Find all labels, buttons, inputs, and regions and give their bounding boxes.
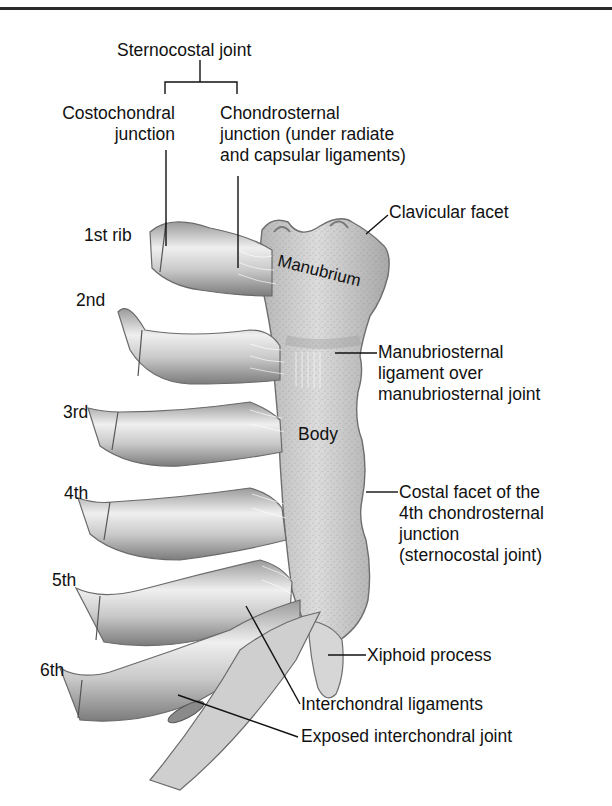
label-xiphoid-process: Xiphoid process (367, 645, 492, 666)
label-costal-facet: Costal facet of the 4th chondrosternal j… (399, 482, 544, 566)
label-rib-5: 5th (52, 570, 76, 591)
label-rib-4: 4th (64, 483, 88, 504)
label-line: (sternocostal joint) (399, 545, 544, 566)
label-chondrosternal-junction: Chondrosternal junction (under radiate a… (220, 103, 406, 166)
label-interchondral-ligaments: Interchondral ligaments (301, 694, 483, 715)
label-manubriosternal-ligament: Manubriosternal ligament over manubriost… (378, 342, 540, 405)
label-sternocostal-joint: Sternocostal joint (117, 40, 251, 61)
label-line: junction (42, 124, 175, 145)
label-rib-6: 6th (40, 660, 64, 681)
label-line: Chondrosternal (220, 103, 406, 124)
label-rib-1: 1st rib (84, 225, 132, 246)
label-line: Manubriosternal (378, 342, 540, 363)
label-rib-2: 2nd (76, 290, 105, 311)
label-clavicular-facet: Clavicular facet (389, 202, 509, 223)
label-line: 4th chondrosternal (399, 503, 544, 524)
label-line: junction (399, 524, 544, 545)
label-costochondral-junction: Costochondral junction (42, 103, 175, 145)
label-line: ligament over (378, 363, 540, 384)
label-line: and capsular ligaments) (220, 145, 406, 166)
label-line: Costochondral (42, 103, 175, 124)
label-line: Costal facet of the (399, 482, 544, 503)
label-line: manubriosternal joint (378, 384, 540, 405)
label-exposed-interchondral-joint: Exposed interchondral joint (301, 726, 512, 747)
label-body: Body (298, 424, 338, 445)
label-rib-3: 3rd (63, 402, 88, 423)
label-line: junction (under radiate (220, 124, 406, 145)
